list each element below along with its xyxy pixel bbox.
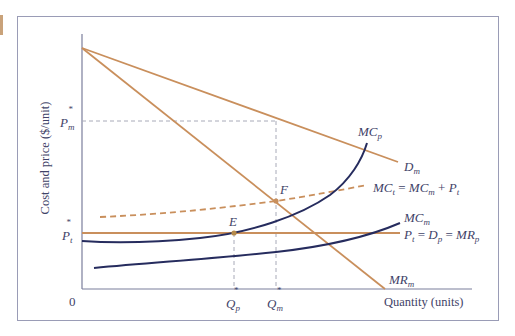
point-e-marker	[231, 230, 236, 235]
pt-star-label: Pt*	[62, 227, 72, 245]
pm-star-label: Pm*	[60, 114, 74, 132]
mrm-label: MRm	[389, 273, 414, 289]
mct-curve	[100, 185, 367, 217]
dm-label: Dm	[404, 160, 420, 176]
pt-dp-mrp-label: Pt = Dp = MRp	[404, 228, 479, 244]
point-f-marker	[273, 198, 278, 203]
origin-label: 0	[69, 294, 76, 310]
mrm-curve	[82, 48, 385, 289]
mct-label: MCt = MCm + Pt	[373, 181, 459, 197]
mcp-label: MCp	[358, 125, 382, 141]
qm-star-label: Qm*	[267, 295, 282, 313]
x-axis-label: Quantity (units)	[384, 295, 464, 310]
point-e-label: E	[229, 215, 237, 228]
y-axis-label: Cost and price ($/unit)	[38, 102, 53, 215]
qp-star-label: Qp*	[226, 295, 239, 313]
diagram-canvas	[0, 0, 515, 336]
dm-curve	[82, 48, 398, 162]
point-f-label: F	[280, 183, 288, 196]
mcm-label: MCm	[404, 211, 430, 227]
